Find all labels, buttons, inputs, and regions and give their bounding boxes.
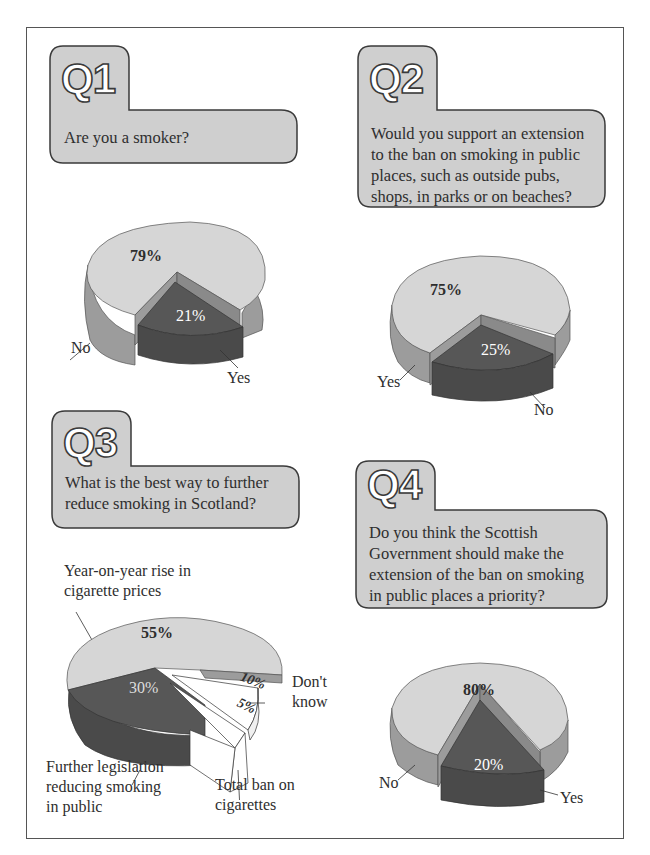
q2-text-line: places, such as outside pubs, [371,165,584,186]
q4-text-line: Do you think the Scottish [369,522,584,543]
label-line: Further legislation [46,757,164,777]
q4-text-line: extension of the ban on smoking [369,564,584,585]
q3-price-rise-percent: 55% [141,623,173,643]
q3-dont-know-label: Don't know [292,672,328,712]
q2-no-label: No [534,400,554,420]
q4-label: Q4 [367,464,421,506]
q1-label: Q1 [61,58,115,100]
q3-text-line: reduce smoking in Scotland? [65,493,268,514]
q3-question-box: Q3 What is the best way to further reduc… [51,410,301,530]
q3-legislation-percent: 30% [129,678,158,698]
q2-yes-label: Yes [377,372,400,392]
q3-price-rise-label: Year-on-year rise in cigarette prices [64,561,191,601]
q3-total-ban-label: Total ban on cigarettes [215,775,295,815]
q4-yes-percent: 20% [474,755,503,775]
q3-label: Q3 [63,422,117,464]
q4-no-percent: 80% [463,680,495,700]
label-line: Don't [292,672,328,692]
label-line: Year-on-year rise in [64,561,191,581]
q4-question-box: Q4 Do you think the Scottish Government … [355,460,610,610]
q2-text-line: Would you support an extension [371,123,584,144]
label-line: reducing smoking [46,777,164,797]
label-line: cigarette prices [64,581,191,601]
q4-text: Do you think the Scottish Government sho… [369,522,584,606]
q1-question-box: Q1 Are you a smoker? [49,45,299,165]
q2-yes-percent: 75% [430,280,462,300]
q2-label: Q2 [369,58,423,100]
q1-text: Are you a smoker? [64,127,189,148]
q3-text: What is the best way to further reduce s… [65,472,268,514]
q4-yes-label: Yes [560,788,583,808]
q2-text-line: shops, in parks or on beaches? [371,186,584,207]
label-line: in public [46,797,164,817]
q1-yes-label: Yes [227,368,250,388]
q3-text-line: What is the best way to further [65,472,268,493]
q1-no-percent: 79% [130,246,162,266]
q1-pie-chart [40,220,310,400]
q1-yes-percent: 21% [176,306,205,326]
q3-legislation-label: Further legislation reducing smoking in … [46,757,164,817]
q4-text-line: in public places a priority? [369,585,584,606]
q1-no-label: No [71,338,91,358]
label-line: Total ban on [215,775,295,795]
q2-no-percent: 25% [481,340,510,360]
q2-text-line: to the ban on smoking in public [371,144,584,165]
q4-no-label: No [379,773,399,793]
label-line: cigarettes [215,795,295,815]
q2-question-box: Q2 Would you support an extension to the… [357,45,607,210]
q2-text: Would you support an extension to the ba… [371,123,584,207]
q4-text-line: Government should make the [369,543,584,564]
label-line: know [292,692,328,712]
